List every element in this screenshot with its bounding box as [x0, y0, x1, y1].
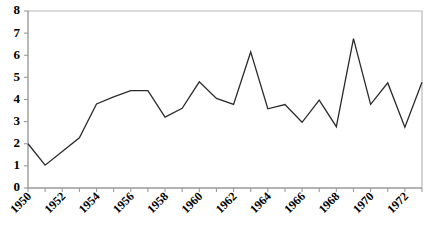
x-tick-label-group: 1956	[110, 189, 137, 216]
x-tick-label-group: 1964	[247, 189, 274, 216]
x-axis: 1950195219541956195819601962196419661968…	[7, 188, 422, 216]
x-tick-label-group: 1966	[281, 189, 308, 216]
x-tick-label: 1964	[247, 189, 274, 216]
x-tick-label: 1954	[76, 189, 103, 216]
x-tick-label: 1952	[42, 189, 69, 216]
y-tick-label: 8	[14, 2, 21, 17]
x-tick-label: 1970	[350, 189, 377, 216]
x-tick-label-group: 1970	[350, 189, 377, 216]
y-tick-label: 1	[14, 157, 21, 172]
y-tick-label: 4	[14, 91, 21, 106]
plot-background	[28, 11, 422, 188]
x-tick-label: 1972	[384, 189, 411, 216]
x-tick-label-group: 1952	[42, 189, 69, 216]
y-tick-label: 6	[14, 47, 21, 62]
y-tick-label: 7	[14, 25, 21, 40]
x-tick-label: 1966	[281, 189, 308, 216]
x-tick-label-group: 1968	[316, 189, 343, 216]
x-tick-label-group: 1962	[213, 189, 240, 216]
x-tick-label: 1950	[7, 189, 34, 216]
x-tick-label: 1958	[144, 189, 171, 216]
y-tick-label: 5	[14, 69, 21, 84]
x-tick-label: 1960	[179, 189, 206, 216]
y-axis: 012345678	[14, 2, 29, 194]
x-tick-label-group: 1960	[179, 189, 206, 216]
y-tick-label: 3	[14, 113, 21, 128]
x-tick-label-group: 1950	[7, 189, 34, 216]
x-tick-label: 1956	[110, 189, 137, 216]
x-tick-label-group: 1972	[384, 189, 411, 216]
x-tick-label: 1968	[316, 189, 343, 216]
line-chart: 012345678 195019521954195619581960196219…	[0, 0, 430, 237]
y-tick-label: 2	[14, 135, 21, 150]
x-tick-label: 1962	[213, 189, 240, 216]
x-tick-label-group: 1954	[76, 189, 103, 216]
y-tick-label: 0	[14, 179, 21, 194]
x-tick-label-group: 1958	[144, 189, 171, 216]
chart-canvas: 012345678 195019521954195619581960196219…	[0, 0, 430, 237]
